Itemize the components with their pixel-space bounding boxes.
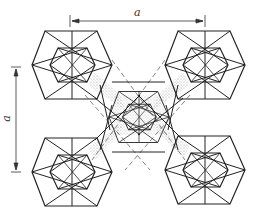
dimension-label-horizontal: a [134,6,141,19]
crystal-structure-diagram [0,0,258,223]
dimension-label-vertical: a [0,115,13,122]
